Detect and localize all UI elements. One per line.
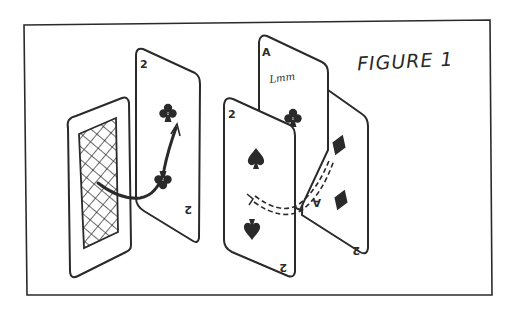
card-index-bottom: 2 <box>184 203 192 216</box>
card-two-of-spades: 2 2 <box>224 98 295 276</box>
card-index-top: 2 <box>140 58 148 71</box>
figure-illustration: 2 2 A 2 A Lmm 2 2 <box>0 0 510 310</box>
card-index-bottom: 2 <box>352 244 360 257</box>
back-card <box>68 98 131 278</box>
card-two-of-clubs: 2 2 <box>136 49 200 242</box>
card-index-bottom: 2 <box>279 261 287 274</box>
card-index-top: 2 <box>228 108 236 121</box>
card-index-top: A <box>262 46 271 59</box>
